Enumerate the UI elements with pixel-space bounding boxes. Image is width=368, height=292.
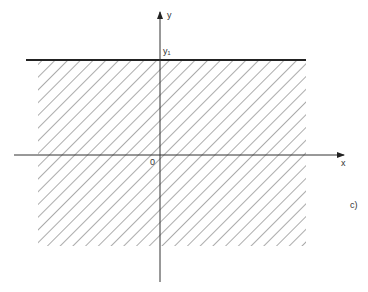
y1-label: y₁ xyxy=(163,46,171,56)
origin-label: 0 xyxy=(150,157,155,167)
y-axis-label: y xyxy=(167,10,172,20)
half-plane-diagram xyxy=(0,0,368,292)
hatched-region xyxy=(38,60,306,246)
panel-label: c) xyxy=(350,200,358,210)
x-axis-label: x xyxy=(341,158,346,168)
